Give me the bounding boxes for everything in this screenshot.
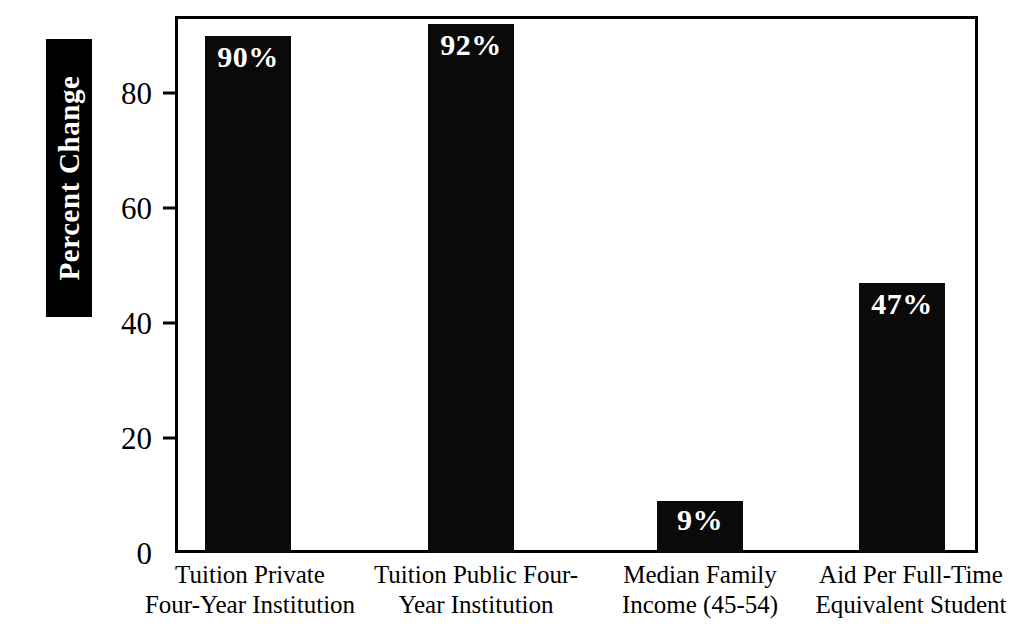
y-tick-label-40: 40: [60, 308, 152, 339]
bar-value-label: 92%: [428, 28, 514, 62]
bar-value-label: 90%: [205, 40, 291, 74]
x-category-line-2: Year Institution: [356, 590, 596, 620]
x-category-line-1: Tuition Public Four-: [356, 560, 596, 590]
bar-chart-figure: Percent Change 80 60 40 20 0 90% 92% 9% …: [0, 0, 1028, 635]
bar-median-family-income: 9%: [657, 501, 743, 553]
bar-aid-per-fte-student: 47%: [859, 283, 945, 553]
x-category-line-1: Median Family: [591, 560, 809, 590]
bar-tuition-public-four-year: 92%: [428, 24, 514, 553]
x-category-label-2: Median Family Income (45-54): [591, 560, 809, 620]
x-category-line-1: Tuition Private: [130, 560, 370, 590]
x-category-label-1: Tuition Public Four- Year Institution: [356, 560, 596, 620]
y-tick-label-20: 20: [60, 423, 152, 454]
bar-value-label: 9%: [657, 503, 743, 537]
bar-value-label: 47%: [859, 287, 945, 321]
y-tick-label-80: 80: [60, 78, 152, 109]
x-category-line-2: Equivalent Student: [796, 590, 1026, 620]
x-category-line-2: Four-Year Institution: [130, 590, 370, 620]
x-category-line-2: Income (45-54): [591, 590, 809, 620]
chart-title: [0, 0, 1028, 5]
x-category-label-3: Aid Per Full-Time Equivalent Student: [796, 560, 1026, 620]
plot-area-frame: [175, 16, 978, 553]
bar-tuition-private-four-year: 90%: [205, 36, 291, 553]
y-tick-label-60: 60: [60, 193, 152, 224]
x-category-line-1: Aid Per Full-Time: [796, 560, 1026, 590]
x-category-label-0: Tuition Private Four-Year Institution: [130, 560, 370, 620]
